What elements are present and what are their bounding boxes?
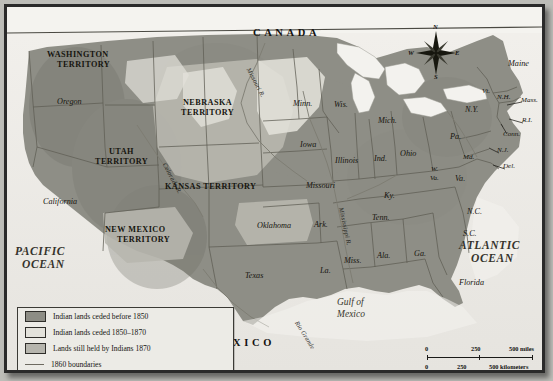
ocean-label-pacific-1: PACIFIC xyxy=(15,245,65,257)
compass-label-west: W xyxy=(408,49,414,56)
state-label: Ky. xyxy=(384,192,395,201)
map-canvas: CANADA MEXICO PACIFIC OCEAN ATLANTIC OCE… xyxy=(7,7,542,370)
legend-rows: Indian lands ceded before 1850Indian lan… xyxy=(18,310,233,370)
state-label: Oregon xyxy=(57,98,82,107)
scale-tick-mid xyxy=(479,355,480,360)
compass-label-north: N xyxy=(433,23,438,30)
map-frame: CANADA MEXICO PACIFIC OCEAN ATLANTIC OCE… xyxy=(4,4,545,373)
state-label: Minn. xyxy=(293,100,312,109)
map-plate: CANADA MEXICO PACIFIC OCEAN ATLANTIC OCE… xyxy=(0,0,553,381)
legend-item: Lands still held by Indians 1870 xyxy=(25,342,233,356)
state-label: N.J. xyxy=(497,147,508,154)
legend-item-label: 1860 boundaries xyxy=(51,360,101,369)
state-label: Ala. xyxy=(377,252,390,261)
legend-line-sample xyxy=(25,364,44,365)
legend-item-label: Lands still held by Indians 1870 xyxy=(53,344,151,353)
state-label: R.I. xyxy=(522,117,532,124)
territory-label-nebraska-1: NEBRASKA xyxy=(183,99,232,108)
state-label: N.C. xyxy=(467,208,482,217)
scale-miles-500: 500 miles xyxy=(509,345,534,352)
state-label: Florida xyxy=(459,279,484,288)
legend-item-label: Indian lands ceded 1850–1870 xyxy=(53,328,146,337)
state-label: Ark. xyxy=(314,221,328,230)
state-label: Ga. xyxy=(414,250,426,259)
scale-km-0: 0 xyxy=(425,363,428,370)
state-label: La. xyxy=(320,267,331,276)
ocean-label-atlantic-1: ATLANTIC xyxy=(459,239,520,251)
state-label: Miss. xyxy=(344,257,362,266)
territory-label-new-mexico-1: NEW MEXICO xyxy=(105,226,166,235)
scale-km-250: 250 xyxy=(457,363,466,370)
map-legend: Indian lands ceded before 1850Indian lan… xyxy=(17,307,234,370)
state-label: Mass. xyxy=(521,97,538,104)
country-label-canada: CANADA xyxy=(253,27,320,38)
state-label: Va. xyxy=(430,175,439,182)
state-label: Del. xyxy=(503,163,515,170)
state-label: Ind. xyxy=(374,155,387,164)
legend-item: 1860 boundaries xyxy=(25,357,233,370)
state-label: Iowa xyxy=(300,141,316,150)
territory-label-washington-1: WASHINGTON xyxy=(47,51,109,60)
state-label: Vt. xyxy=(482,88,490,95)
state-label: Mich. xyxy=(378,117,397,126)
legend-color-swatch xyxy=(25,343,46,354)
territory-label-utah-1: UTAH xyxy=(109,148,134,157)
state-label: N.Y. xyxy=(465,106,478,115)
scale-miles-250: 250 xyxy=(471,345,480,352)
state-label: S.C. xyxy=(463,230,477,239)
ocean-label-atlantic-2: OCEAN xyxy=(471,252,514,264)
territory-label-utah-2: TERRITORY xyxy=(95,158,148,167)
state-label: Wis. xyxy=(334,101,348,110)
territory-label-washington-2: TERRITORY xyxy=(57,61,110,70)
state-label: Oklahoma xyxy=(257,222,291,231)
territory-label-new-mexico-2: TERRITORY xyxy=(117,236,170,245)
legend-item-label: Indian lands ceded before 1850 xyxy=(53,312,148,321)
state-label: N.H. xyxy=(497,94,510,101)
legend-color-swatch xyxy=(25,327,46,338)
territory-label-nebraska-2: TERRITORY xyxy=(181,109,234,118)
compass-label-south: S xyxy=(434,73,438,80)
legend-item: Indian lands ceded 1850–1870 xyxy=(25,326,233,340)
compass-label-east: E xyxy=(455,49,459,56)
scale-miles-0: 0 xyxy=(425,345,428,352)
state-label: Va. xyxy=(455,175,465,184)
state-label: Missouri xyxy=(306,182,335,191)
ocean-label-pacific-2: OCEAN xyxy=(22,258,65,270)
state-label: Ohio xyxy=(400,150,416,159)
state-label: Conn. xyxy=(503,131,520,138)
state-label: Texas xyxy=(245,272,263,281)
gulf-label-line2: Mexico xyxy=(337,310,365,320)
state-label: Md. xyxy=(463,154,474,161)
state-label: Pa. xyxy=(450,133,461,142)
state-label: California xyxy=(43,198,77,207)
state-label: Maine xyxy=(508,60,529,69)
map-page: CANADA MEXICO PACIFIC OCEAN ATLANTIC OCE… xyxy=(0,0,553,381)
compass-rose: N E S W xyxy=(405,21,467,83)
scale-km-500: 500 kilometers xyxy=(489,363,528,370)
state-label: Tenn. xyxy=(372,214,390,223)
gulf-label-line1: Gulf of xyxy=(337,298,364,308)
legend-item: Indian lands ceded before 1850 xyxy=(25,310,233,324)
state-label: Illinois xyxy=(335,157,358,166)
legend-color-swatch xyxy=(25,311,46,322)
state-label: W. xyxy=(431,166,438,173)
scale-bar: 0 250 500 miles 0 250 500 kilometers xyxy=(421,343,542,370)
